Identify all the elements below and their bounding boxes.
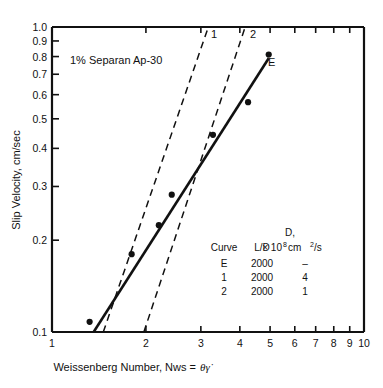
y-tick-label: 0.6 — [32, 89, 47, 101]
figure-container: 12345678910 0.10.20.30.40.50.60.70.80.91… — [0, 0, 383, 388]
x-tick-label: 10 — [358, 337, 370, 349]
x-tick-label: 1 — [49, 337, 55, 349]
y-tick-label: 0.8 — [32, 51, 47, 63]
curve-label-1: 1 — [211, 28, 217, 40]
legend-cell-curve: 2 — [221, 286, 227, 297]
x-tick-label: 2 — [143, 337, 149, 349]
data-point — [210, 132, 216, 138]
legend-cell-ld: 2000 — [251, 286, 274, 297]
legend-header-d: D, — [285, 227, 295, 238]
legend-unit-prefix: × 10 — [262, 242, 282, 253]
x-tick-label: 3 — [198, 337, 204, 349]
y-tick-label: 0.7 — [32, 68, 47, 80]
legend-unit-exponent: 8 — [283, 241, 287, 248]
x-axis-title-text: Weissenberg Number, Nws = — [53, 361, 196, 373]
legend-unit-suffix: cm — [288, 242, 301, 253]
curve-label-2: 2 — [250, 28, 256, 40]
slip-velocity-chart: 12345678910 0.10.20.30.40.50.60.70.80.91… — [0, 0, 383, 388]
data-point — [169, 192, 175, 198]
y-tick-label: 0.2 — [32, 234, 47, 246]
y-tick-label: 0.3 — [32, 180, 47, 192]
x-tick-label: 7 — [313, 337, 319, 349]
y-axis-title: Slip Velocity, cm/sec — [10, 130, 22, 230]
y-tick-label: 1.0 — [32, 21, 47, 33]
y-tick-label: 0.4 — [32, 142, 47, 154]
sample-annotation: 1% Separan Ap-30 — [70, 54, 162, 66]
x-tick-label: 5 — [267, 337, 273, 349]
legend-cell-diffusivity: 1 — [302, 286, 308, 297]
chart-background — [0, 0, 383, 388]
y-tick-label: 0.1 — [32, 326, 47, 338]
legend-cell-diffusivity: – — [302, 258, 308, 269]
x-tick-label: 6 — [292, 337, 298, 349]
legend-cell-ld: 2000 — [251, 272, 274, 283]
legend-cell-diffusivity: 4 — [302, 272, 308, 283]
legend-unit-tail: /s — [314, 242, 322, 253]
y-tick-label: 0.5 — [32, 113, 47, 125]
x-axis-title: Weissenberg Number, Nws = θγ̇ — [53, 361, 213, 373]
y-tick-label: 0.9 — [32, 35, 47, 47]
legend-cell-curve: 1 — [221, 272, 227, 283]
legend-header-curve: Curve — [211, 242, 238, 253]
data-point — [129, 251, 135, 257]
data-point — [245, 99, 251, 105]
data-point — [156, 222, 162, 228]
data-point — [87, 319, 93, 325]
x-tick-label: 9 — [347, 337, 353, 349]
x-tick-label: 4 — [237, 337, 243, 349]
x-tick-label: 8 — [331, 337, 337, 349]
legend-cell-curve: E — [221, 258, 228, 269]
legend-cell-ld: 2000 — [251, 258, 274, 269]
curve-label-e: E — [268, 56, 275, 68]
